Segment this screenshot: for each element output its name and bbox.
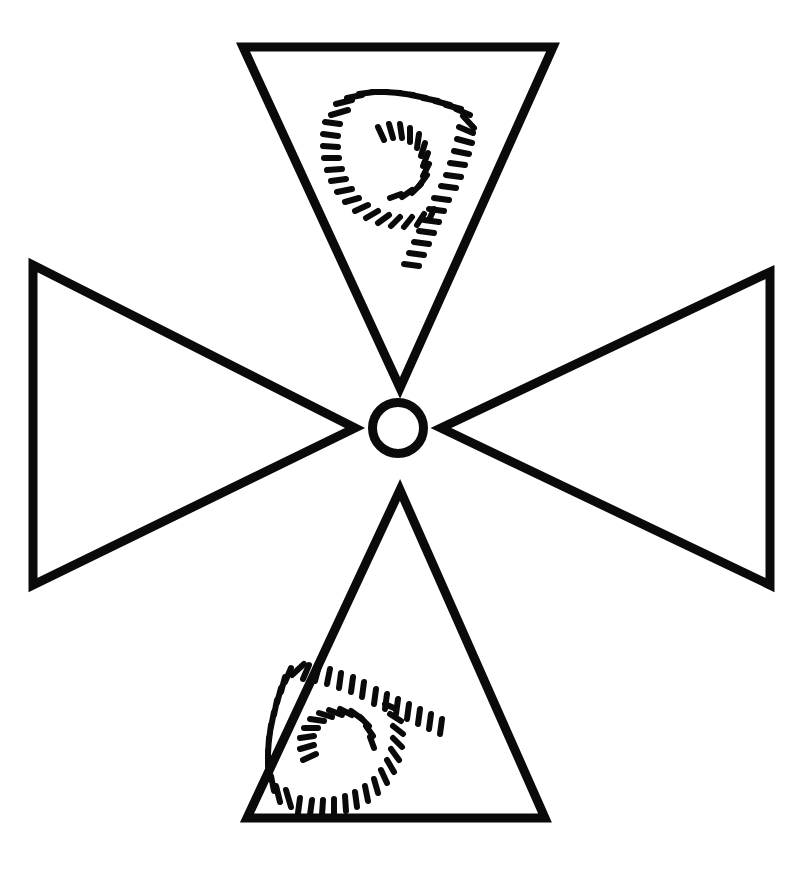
center-circle[interactable] (373, 403, 424, 454)
cross-figure-svg (0, 0, 808, 895)
figure-canvas (0, 0, 808, 895)
